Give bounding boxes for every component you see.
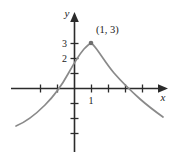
curve-path (16, 43, 163, 126)
graph-figure: y x 3 2 1 (1, 3) (0, 0, 176, 158)
x-tick-label-1: 1 (89, 95, 94, 106)
y-axis-arrowhead (70, 12, 79, 22)
y-axis-label: y (64, 7, 70, 19)
coordinate-plot: y x 3 2 1 (1, 3) (0, 0, 176, 158)
vertex-point-marker (89, 41, 94, 46)
vertex-point-label: (1, 3) (96, 24, 119, 36)
y-axis (70, 12, 79, 152)
x-axis-label: x (160, 91, 166, 103)
y-tick-label-3: 3 (62, 38, 67, 49)
y-tick-label-2: 2 (62, 53, 67, 64)
x-axis (11, 84, 168, 93)
